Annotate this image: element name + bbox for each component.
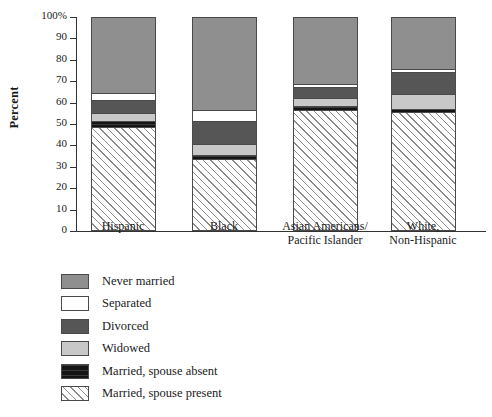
legend-label: Married, spouse absent: [102, 364, 218, 379]
y-tick-label-90: 90: [21, 30, 67, 42]
x-label-line2: Non-Hispanic: [358, 233, 488, 247]
x-label-white-non-hispanic: White, Non-Hispanic: [358, 219, 488, 247]
y-tick-label-100: 100%: [21, 9, 67, 21]
legend-swatch-icon: [61, 341, 89, 356]
legend-item-married-spouse-absent[interactable]: Married, spouse absent: [61, 360, 222, 383]
y-tick-label-70: 70: [21, 73, 67, 85]
legend-label: Widowed: [102, 341, 150, 356]
bar-black: [192, 17, 257, 231]
y-tick-100: 100%: [70, 17, 76, 18]
legend-swatch-icon: [61, 274, 89, 289]
y-tick-label-80: 80: [21, 52, 67, 64]
y-tick-30: 30: [70, 167, 76, 168]
legend-swatch-icon: [61, 296, 89, 311]
legend-swatch-icon: [61, 364, 89, 379]
legend-swatch-icon: [61, 319, 89, 334]
y-axis-line: [76, 17, 77, 232]
y-tick-80: 80: [70, 60, 76, 61]
segment-widowed: [294, 99, 357, 107]
y-tick-label-60: 60: [21, 95, 67, 107]
y-axis-title: Percent: [7, 68, 22, 148]
legend-item-married-spouse-present[interactable]: Married, spouse present: [61, 383, 222, 406]
bar-asian-americans: [293, 17, 358, 231]
segment-widowed: [392, 95, 455, 110]
segment-widowed: [193, 145, 256, 156]
legend-item-separated[interactable]: Separated: [61, 293, 222, 316]
plot-area: 100% 90 80 70 60 50 40 30 20 10 0: [76, 17, 486, 231]
segment-married-spouse-absent: [294, 107, 357, 111]
segment-separated: [294, 85, 357, 88]
bar-white: [391, 17, 456, 231]
segment-separated: [92, 94, 155, 100]
segment-married-spouse-present: [392, 113, 455, 230]
segment-married-spouse-absent: [392, 110, 455, 113]
segment-married-spouse-present: [92, 128, 155, 230]
segment-married-spouse-absent: [92, 122, 155, 128]
y-tick-label-10: 10: [21, 202, 67, 214]
segment-divorced: [392, 73, 455, 95]
legend-item-divorced[interactable]: Divorced: [61, 315, 222, 338]
y-tick-10: 10: [70, 210, 76, 211]
y-tick-label-40: 40: [21, 137, 67, 149]
legend-label: Separated: [102, 296, 151, 311]
legend-label: Married, spouse present: [102, 386, 222, 401]
y-tick-50: 50: [70, 124, 76, 125]
y-tick-label-20: 20: [21, 180, 67, 192]
segment-never-married: [392, 18, 455, 70]
y-tick-70: 70: [70, 81, 76, 82]
x-label-line1: White,: [358, 219, 488, 233]
legend-label: Never married: [102, 274, 175, 289]
segment-never-married: [92, 18, 155, 94]
bar-hispanic: [91, 17, 156, 231]
legend-item-never-married[interactable]: Never married: [61, 270, 222, 293]
segment-separated: [392, 70, 455, 73]
segment-divorced: [294, 88, 357, 99]
segment-never-married: [294, 18, 357, 85]
segment-married-spouse-present: [294, 111, 357, 230]
legend-swatch-icon: [61, 386, 89, 401]
segment-divorced: [193, 122, 256, 145]
chart-legend: Never marriedSeparatedDivorcedWidowedMar…: [61, 270, 222, 405]
y-tick-90: 90: [70, 38, 76, 39]
segment-married-spouse-absent: [193, 156, 256, 160]
legend-item-widowed[interactable]: Widowed: [61, 338, 222, 361]
y-tick-label-30: 30: [21, 159, 67, 171]
y-tick-40: 40: [70, 145, 76, 146]
segment-never-married: [193, 18, 256, 111]
segment-widowed: [92, 114, 155, 121]
y-tick-60: 60: [70, 103, 76, 104]
y-tick-20: 20: [70, 188, 76, 189]
segment-separated: [193, 111, 256, 122]
segment-divorced: [92, 101, 155, 115]
stacked-bar-chart: Percent 100% 90 80 70 60 50 40 30 20 10 …: [0, 0, 492, 417]
y-tick-label-50: 50: [21, 116, 67, 128]
legend-label: Divorced: [102, 319, 149, 334]
